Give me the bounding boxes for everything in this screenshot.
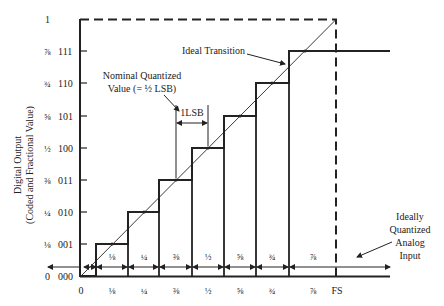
svg-text:⅛: ⅛ xyxy=(44,240,51,250)
svg-text:¼: ¼ xyxy=(141,286,148,296)
svg-text:⅜: ⅜ xyxy=(173,252,180,262)
svg-text:0: 0 xyxy=(79,285,84,296)
svg-text:⅞: ⅞ xyxy=(44,47,51,57)
svg-text:⅜: ⅜ xyxy=(44,176,51,186)
svg-text:½: ½ xyxy=(44,144,51,154)
analog-input-label: Ideally Quantized Analog Input xyxy=(389,211,430,261)
y-axis-title: Digital Output (Coded and Fractional Val… xyxy=(12,106,36,224)
svg-text:FS: FS xyxy=(331,285,342,296)
svg-text:⅛: ⅛ xyxy=(109,286,116,296)
svg-text:Ideally: Ideally xyxy=(396,211,424,222)
svg-text:0: 0 xyxy=(45,271,50,282)
adc-transfer-function-diagram: 1LSB ⅛ ¼ ⅜ ½ ⅝ ¾ ⅞ 0 ⅛ ¼ ⅜ ½ ⅝ ¾ ⅞ FS 0 … xyxy=(0,0,444,306)
svg-text:½: ½ xyxy=(205,252,212,262)
svg-text:½: ½ xyxy=(205,286,212,296)
svg-text:¾: ¾ xyxy=(44,79,51,89)
svg-text:¾: ¾ xyxy=(269,286,276,296)
svg-text:¾: ¾ xyxy=(269,252,276,262)
y-ticks xyxy=(80,51,87,244)
svg-text:010: 010 xyxy=(58,207,73,218)
svg-text:⅝: ⅝ xyxy=(237,286,244,296)
svg-text:(Coded and Fractional Value): (Coded and Fractional Value) xyxy=(24,106,36,224)
svg-text:110: 110 xyxy=(58,78,73,89)
ideal-transition-arrow xyxy=(247,54,285,64)
nominal-label-line1: Nominal Quantized xyxy=(103,70,182,81)
svg-text:⅝: ⅝ xyxy=(237,252,244,262)
svg-text:¼: ¼ xyxy=(141,252,148,262)
svg-text:Analog: Analog xyxy=(395,237,424,248)
svg-text:⅝: ⅝ xyxy=(44,112,51,122)
svg-text:000: 000 xyxy=(58,271,73,282)
svg-text:1: 1 xyxy=(45,14,50,25)
lsb-label: 1LSB xyxy=(180,107,204,118)
svg-text:⅞: ⅞ xyxy=(310,286,317,296)
svg-text:⅜: ⅜ xyxy=(173,286,180,296)
svg-text:⅛: ⅛ xyxy=(109,252,116,262)
svg-text:111: 111 xyxy=(58,46,72,57)
y-tick-labels: 0 000 ⅛ 001 ¼ 010 ⅜ 011 ½ 100 ⅝ 101 ¾ 11… xyxy=(44,14,73,282)
x-tick-labels: 0 ⅛ ¼ ⅜ ½ ⅝ ¾ ⅞ FS xyxy=(79,285,343,296)
svg-text:Input: Input xyxy=(399,250,420,261)
analog-input-arrow xyxy=(357,242,392,257)
nominal-arrow xyxy=(164,95,179,111)
ideal-transition-label: Ideal Transition xyxy=(182,45,245,56)
nominal-label-line2: Value (= ½ LSB) xyxy=(108,83,176,95)
interval-labels: ⅛ ¼ ⅜ ½ ⅝ ¾ ⅞ xyxy=(109,252,317,262)
svg-text:Digital Output: Digital Output xyxy=(12,136,23,194)
svg-text:¼: ¼ xyxy=(44,208,51,218)
svg-text:101: 101 xyxy=(58,111,73,122)
svg-text:Quantized: Quantized xyxy=(389,224,430,235)
svg-text:011: 011 xyxy=(58,175,73,186)
svg-text:001: 001 xyxy=(58,239,73,250)
svg-text:100: 100 xyxy=(58,143,73,154)
svg-text:⅞: ⅞ xyxy=(310,252,317,262)
